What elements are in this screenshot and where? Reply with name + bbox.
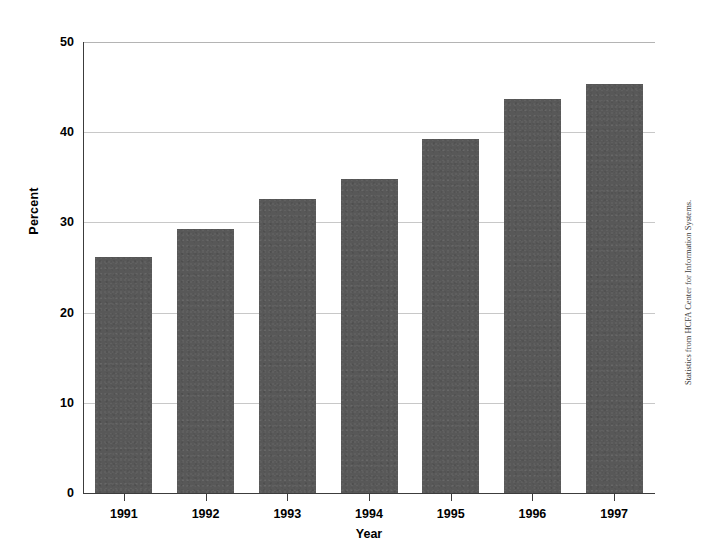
y-tick-label-50: 50 [44, 36, 74, 49]
x-tick-1996 [532, 494, 533, 501]
bar-1995 [422, 139, 479, 493]
x-tick-label-1994: 1994 [324, 507, 414, 521]
gridline-40 [83, 132, 655, 133]
y-tick-label-30: 30 [44, 216, 74, 229]
x-tick-1993 [287, 494, 288, 501]
bar-1993 [259, 199, 316, 493]
y-tick-label-0: 0 [44, 487, 74, 500]
x-tick-1995 [451, 494, 452, 501]
x-tick-1992 [206, 494, 207, 501]
plot-area [83, 42, 655, 493]
x-tick-1997 [614, 494, 615, 501]
x-tick-1994 [369, 494, 370, 501]
y-axis-title: Percent [27, 171, 41, 251]
y-tick-label-20: 20 [44, 307, 74, 320]
y-tick-label-40: 40 [44, 126, 74, 139]
x-tick-label-1993: 1993 [242, 507, 332, 521]
y-axis-line [83, 42, 84, 494]
source-note: Statistics from HCFA Center for Informat… [683, 165, 693, 385]
x-tick-label-1995: 1995 [406, 507, 496, 521]
bar-1997 [586, 84, 643, 493]
x-axis-title: Year [83, 527, 655, 541]
bar-1994 [341, 179, 398, 493]
x-tick-1991 [124, 494, 125, 501]
bar-1991 [95, 257, 152, 493]
x-tick-label-1997: 1997 [569, 507, 659, 521]
y-tick-label-10: 10 [44, 397, 74, 410]
bar-1996 [504, 99, 561, 493]
x-tick-label-1996: 1996 [487, 507, 577, 521]
bar-chart: Percent 01020304050 19911992199319941995… [0, 0, 712, 560]
bar-1992 [177, 229, 234, 493]
x-tick-label-1992: 1992 [161, 507, 251, 521]
gridline-50 [83, 42, 655, 43]
x-tick-label-1991: 1991 [79, 507, 169, 521]
